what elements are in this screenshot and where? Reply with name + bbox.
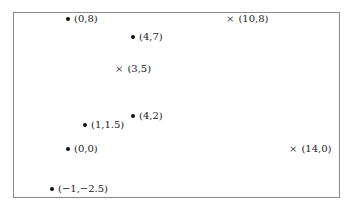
point-label: (10,8) xyxy=(238,13,268,25)
dot-marker-icon xyxy=(66,17,70,21)
cross-marker-icon: × xyxy=(289,143,297,155)
point-8: (−1,−2.5) xyxy=(50,183,108,195)
dot-marker-icon xyxy=(50,187,54,191)
point-7: ×(14,0) xyxy=(289,143,331,155)
point-1: (4,7) xyxy=(131,31,163,43)
dot-marker-icon xyxy=(83,123,87,127)
point-label: (0,0) xyxy=(74,143,98,155)
point-4: (4,2) xyxy=(131,110,163,122)
point-label: (14,0) xyxy=(301,143,331,155)
point-label: (0,8) xyxy=(74,13,98,25)
point-label: (1,1.5) xyxy=(91,119,124,131)
point-0: (0,8) xyxy=(66,13,98,25)
cross-marker-icon: × xyxy=(115,63,123,75)
point-2: ×(3,5) xyxy=(115,63,151,75)
point-3: ×(10,8) xyxy=(226,13,268,25)
point-6: (0,0) xyxy=(66,143,98,155)
dot-marker-icon xyxy=(131,35,135,39)
point-label: (3,5) xyxy=(127,63,151,75)
cross-marker-icon: × xyxy=(226,13,234,25)
point-label: (−1,−2.5) xyxy=(58,183,108,195)
dot-marker-icon xyxy=(131,114,135,118)
point-label: (4,7) xyxy=(139,31,163,43)
point-5: (1,1.5) xyxy=(83,119,124,131)
plot-frame xyxy=(13,12,340,198)
point-label: (4,2) xyxy=(139,110,163,122)
dot-marker-icon xyxy=(66,147,70,151)
